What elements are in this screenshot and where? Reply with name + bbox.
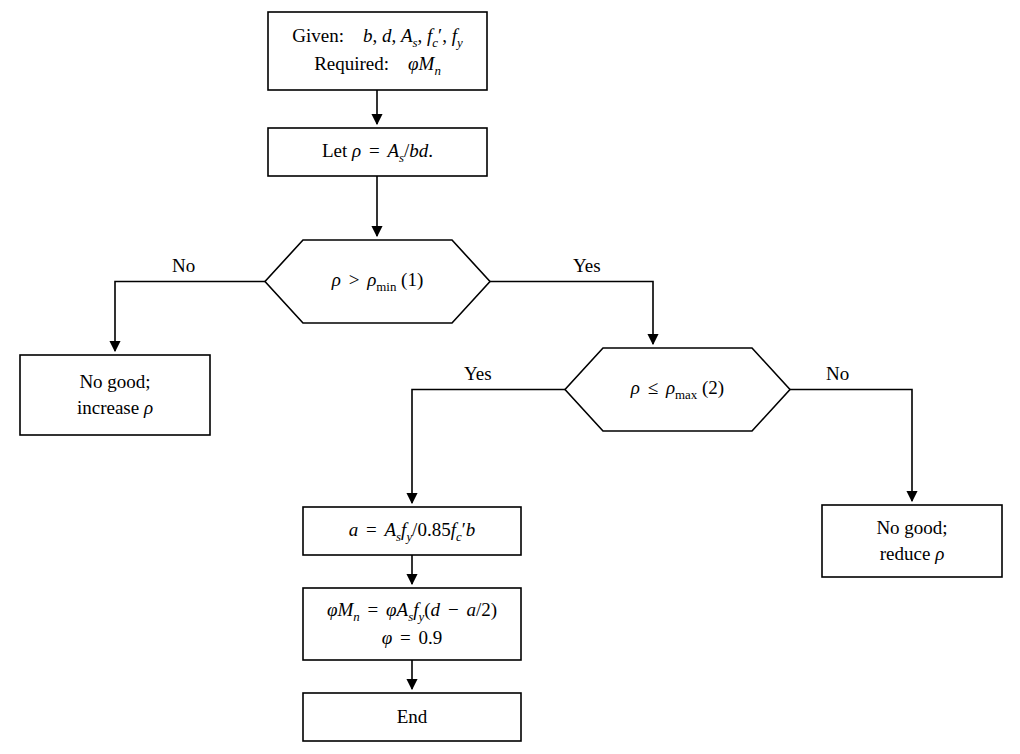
compute-phi-mn-box bbox=[303, 588, 521, 660]
edge-label-no-max: No bbox=[826, 363, 849, 385]
connector-decision-max-no-to-reduce bbox=[790, 390, 912, 502]
connector-decision-max-yes-to-compute-a bbox=[412, 390, 565, 504]
edge-label-no-min: No bbox=[172, 255, 195, 277]
flowchart-svg bbox=[0, 0, 1020, 754]
edge-label-yes-max: Yes bbox=[464, 363, 492, 385]
rho-greater-than-rho-min-decision bbox=[265, 240, 490, 323]
edge-label-yes-min: Yes bbox=[573, 255, 601, 277]
rho-less-equal-rho-max-decision bbox=[565, 348, 790, 431]
no-good-increase-rho-box bbox=[20, 355, 210, 435]
connector-decision-min-yes-to-decision-max bbox=[490, 282, 653, 345]
connector-decision-min-no-to-increase bbox=[115, 282, 265, 352]
given-required-box bbox=[268, 12, 487, 90]
let-rho-box bbox=[268, 128, 487, 176]
compute-a-box bbox=[303, 507, 521, 555]
flowchart-canvas: Given:b, d, As, fc′, fy Required:φMn Let… bbox=[0, 0, 1020, 754]
end-box bbox=[303, 693, 521, 741]
no-good-reduce-rho-box bbox=[822, 505, 1002, 577]
